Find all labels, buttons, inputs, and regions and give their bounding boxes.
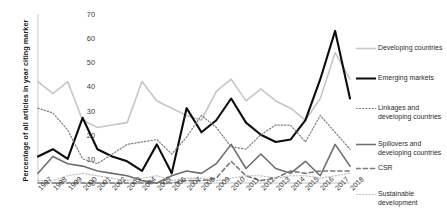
y-axis-title: Percentage of all articles in year citin… [21,10,30,192]
legend-item-emerging-markets[interactable]: Emerging markets [356,74,446,83]
legend-label: Linkages and developing countries [378,104,446,121]
legend-label: Sustainable development [378,190,446,207]
legend-item-csr[interactable]: CSR [356,164,446,173]
axis-lines [38,14,350,183]
legend-label: Emerging markets [378,74,446,83]
legend-item-sustainable-development[interactable]: Sustainable development [356,190,446,207]
legend-item-linkages-and-developing-countries[interactable]: Linkages and developing countries [356,104,446,121]
legend-swatch-icon [356,44,376,53]
legend-swatch-icon [356,104,376,113]
legend-swatch-icon [356,74,376,83]
legend-swatch-icon [356,164,376,173]
plot-area [38,14,350,183]
series-line-developing-countries [38,53,350,128]
legend-label: Spillovers and developing countries [378,140,446,157]
chart-figure: Percentage of all articles in year citin… [0,0,447,224]
series-canvas [38,14,350,183]
series-line-emerging-markets [38,31,350,173]
legend-swatch-icon [356,190,376,199]
chart-legend: Developing countriesEmerging marketsLink… [356,0,447,224]
legend-label: Developing countries [378,44,446,53]
series-line-linkages-and-developing-countries [38,108,350,164]
legend-item-developing-countries[interactable]: Developing countries [356,44,446,53]
legend-item-spillovers-and-developing-countries[interactable]: Spillovers and developing countries [356,140,446,157]
legend-label: CSR [378,164,446,173]
legend-swatch-icon [356,140,376,149]
